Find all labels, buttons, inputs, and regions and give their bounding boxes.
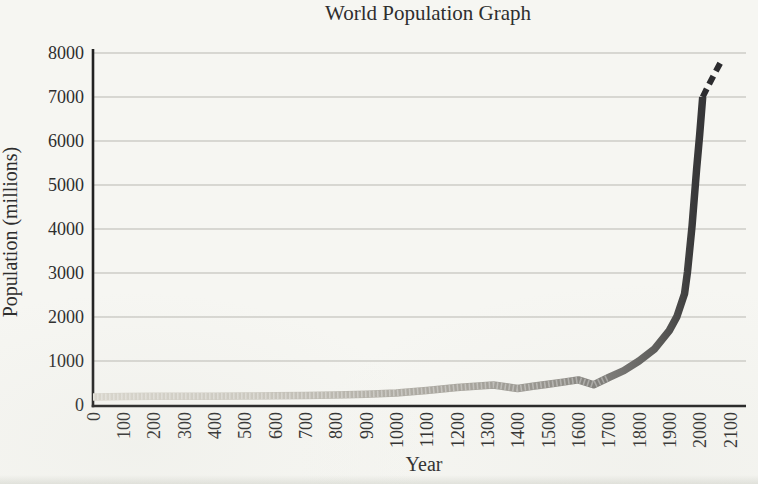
x-tick-label: 600 [266,412,286,439]
x-tick-label: 300 [175,412,195,439]
y-tick-label: 3000 [48,263,84,283]
x-tick-label: 1600 [569,412,589,448]
y-tick-label: 2000 [48,307,84,327]
y-axis-title: Population (millions) [0,147,22,318]
y-axis-tick-labels: 010002000300040005000600070008000 [48,43,84,415]
x-tick-label: 100 [114,412,134,439]
x-tick-label: 200 [144,412,164,439]
y-tick-label: 6000 [48,131,84,151]
x-tick-label: 1700 [599,412,619,448]
x-tick-label: 700 [296,412,316,439]
x-tick-label: 1300 [478,412,498,448]
gridlines [93,53,746,361]
x-tick-label: 1200 [448,412,468,448]
y-tick-label: 0 [75,395,84,415]
y-tick-label: 7000 [48,87,84,107]
x-tick-label: 1900 [660,412,680,448]
y-tick-label: 5000 [48,175,84,195]
chart-title: World Population Graph [325,1,531,25]
x-tick-label: 2100 [721,412,741,448]
x-tick-label: 500 [235,412,255,439]
x-tick-label: 1400 [508,412,528,448]
x-tick-label: 2000 [690,412,710,448]
population-projection-line [703,62,721,97]
world-population-chart: 010002000300040005000600070008000 010020… [0,0,758,484]
x-axis-tick-labels: 0100200300400500600700800900100011001200… [84,412,741,448]
x-tick-label: 800 [326,412,346,439]
x-axis-title: Year [406,453,443,475]
x-tick-label: 1800 [630,412,650,448]
x-tick-label: 0 [84,412,104,421]
x-tick-label: 1100 [417,412,437,447]
x-tick-label: 1500 [539,412,559,448]
y-tick-label: 8000 [48,43,84,63]
y-tick-label: 1000 [48,351,84,371]
y-tick-label: 4000 [48,219,84,239]
x-tick-label: 400 [205,412,225,439]
population-line [93,97,703,397]
x-tick-label: 900 [357,412,377,439]
scanned-chart-page: 010002000300040005000600070008000 010020… [0,0,758,484]
x-tick-label: 1000 [387,412,407,448]
